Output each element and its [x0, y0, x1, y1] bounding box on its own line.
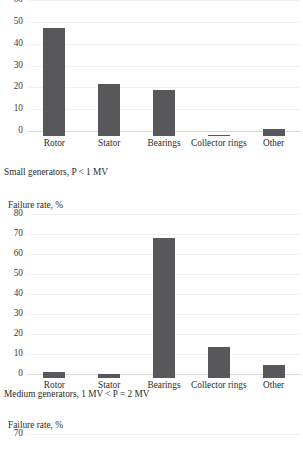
- y-tick-label: 50: [14, 17, 23, 26]
- chart-small-generators: 0102030405060 RotorStatorBearingsCollect…: [0, 0, 303, 136]
- y-tick-label: 10: [14, 349, 23, 358]
- plot-area-medium-generators: 01020304050607080: [0, 214, 303, 378]
- gridline: [27, 214, 301, 215]
- bar: [43, 28, 65, 136]
- gridline: [27, 234, 301, 235]
- gridline: [27, 0, 301, 1]
- bars-third-chart: [27, 434, 301, 451]
- y-tick-label: 0: [18, 369, 23, 378]
- y-tick-label: 30: [14, 309, 23, 318]
- y-tick-label: 70: [14, 429, 23, 438]
- y-tick-label: 10: [14, 105, 23, 114]
- y-tick-label: 20: [14, 83, 23, 92]
- bar: [98, 374, 120, 378]
- bar: [98, 84, 120, 136]
- bars-small-generators: [27, 0, 301, 136]
- bar: [43, 372, 65, 378]
- bar: [208, 347, 230, 378]
- chart-medium-generators: 01020304050607080 RotorStatorBearingsCol…: [0, 214, 303, 378]
- y-tick-label: 40: [14, 289, 23, 298]
- y-tick-label: 80: [14, 209, 23, 218]
- x-tick-label: Other: [241, 380, 303, 391]
- gridline: [27, 22, 301, 23]
- document-page: 0102030405060 RotorStatorBearingsCollect…: [0, 0, 303, 451]
- gridline: [27, 87, 301, 88]
- bar: [153, 238, 175, 378]
- bar: [208, 135, 230, 136]
- caption-medium-generators: Medium generators, 1 MV < P = 2 MV: [4, 389, 150, 400]
- y-tick-label: 60: [14, 249, 23, 258]
- y-tick-label: 30: [14, 61, 23, 70]
- chart-third-partial: 70: [0, 434, 303, 451]
- y-tick-label: 60: [14, 0, 23, 5]
- plot-area-third-chart: 70: [0, 434, 303, 451]
- y-tick-label: 70: [14, 229, 23, 238]
- bar: [263, 129, 285, 136]
- y-axis-small-generators: 0102030405060: [0, 0, 26, 136]
- gridline: [27, 434, 301, 435]
- y-tick-label: 0: [18, 126, 23, 135]
- caption-small-generators: Small generators, P < 1 MV: [4, 167, 108, 178]
- y-tick-label: 40: [14, 39, 23, 48]
- x-tick-label: Other: [241, 138, 303, 149]
- gridline: [27, 44, 301, 45]
- y-axis-medium-generators: 01020304050607080: [0, 214, 26, 378]
- bar: [153, 90, 175, 136]
- plot-area-small-generators: 0102030405060: [0, 0, 303, 136]
- y-axis-third-chart: 70: [0, 434, 26, 451]
- y-tick-label: 20: [14, 329, 23, 338]
- bar: [263, 365, 285, 378]
- bars-medium-generators: [27, 214, 301, 378]
- gridline: [27, 66, 301, 67]
- y-tick-label: 50: [14, 269, 23, 278]
